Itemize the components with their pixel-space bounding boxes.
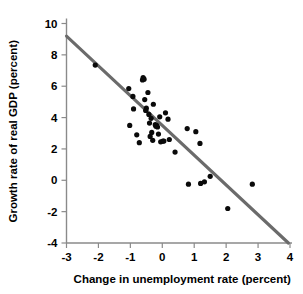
data-point xyxy=(172,149,177,154)
data-point xyxy=(150,138,155,143)
x-axis-title: Change in unemployment rate (percent) xyxy=(74,273,291,285)
data-point xyxy=(156,131,161,136)
data-point xyxy=(225,206,230,211)
regression-line xyxy=(67,36,289,243)
okun-law-scatter-chart: -4-20246810-3-2-101234Change in unemploy… xyxy=(0,0,303,294)
data-point xyxy=(147,120,152,125)
data-point xyxy=(157,114,162,119)
data-point xyxy=(126,86,131,91)
x-tick-label: 4 xyxy=(287,251,294,263)
x-tick-label: -2 xyxy=(93,251,103,263)
y-tick-label: 8 xyxy=(51,49,58,61)
data-point xyxy=(155,124,160,129)
data-point xyxy=(161,138,166,143)
data-point xyxy=(130,94,135,99)
y-tick-label: 4 xyxy=(51,112,58,124)
data-point xyxy=(149,130,154,135)
x-tick-label: 3 xyxy=(255,251,261,263)
data-point xyxy=(185,126,190,131)
data-point xyxy=(137,140,142,145)
data-point xyxy=(208,174,213,179)
y-tick-label: 10 xyxy=(45,18,58,30)
data-point xyxy=(131,106,136,111)
data-point xyxy=(93,62,98,67)
x-tick-label: 2 xyxy=(223,251,229,263)
x-tick-label: -3 xyxy=(61,251,71,263)
data-point xyxy=(202,179,207,184)
data-point xyxy=(141,77,146,82)
data-point xyxy=(167,137,172,142)
x-tick-label: 1 xyxy=(191,251,198,263)
data-point xyxy=(165,117,170,122)
x-tick-label: 0 xyxy=(159,251,165,263)
y-tick-label: 6 xyxy=(51,80,57,92)
data-point xyxy=(127,123,132,128)
y-tick-label: 2 xyxy=(51,143,57,155)
y-tick-label: 0 xyxy=(51,174,57,186)
y-axis-title: Growth rate of real GDP (percent) xyxy=(7,40,19,223)
data-point xyxy=(193,129,198,134)
data-point xyxy=(145,90,150,95)
data-point xyxy=(197,141,202,146)
data-point xyxy=(134,132,139,137)
y-tick-label: -2 xyxy=(47,206,57,218)
data-point xyxy=(151,102,156,107)
y-tick-label: -4 xyxy=(47,237,58,249)
data-point xyxy=(250,182,255,187)
x-tick-label: -1 xyxy=(125,251,136,263)
data-point xyxy=(186,182,191,187)
data-point xyxy=(149,116,154,121)
data-point xyxy=(163,110,168,115)
data-point xyxy=(142,97,147,102)
chart-canvas: -4-20246810-3-2-101234Change in unemploy… xyxy=(0,0,303,294)
